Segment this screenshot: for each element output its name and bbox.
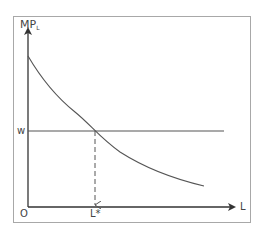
y-axis-label: MPL (20, 19, 39, 31)
mpl-curve (28, 56, 204, 186)
x-axis-label: L (240, 202, 246, 212)
wage-label: w (17, 126, 25, 136)
y-axis-label-main: MP (20, 18, 36, 31)
diagram-canvas (0, 0, 264, 237)
equilibrium-label: L* (90, 209, 101, 219)
origin-label: O (20, 209, 28, 219)
y-axis-label-sub: L (36, 24, 39, 31)
